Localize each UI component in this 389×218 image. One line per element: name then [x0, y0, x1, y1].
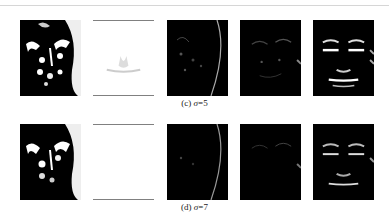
caption-c: (c) σ=5	[0, 98, 389, 108]
sigma-value: =7	[198, 202, 208, 212]
face-filter-response-5	[313, 124, 374, 200]
face-filter-response-2	[93, 20, 154, 96]
sigma-value: =5	[198, 98, 208, 108]
face-filter-response-4	[240, 124, 301, 200]
face-filter-response-1	[20, 124, 81, 200]
face-filter-response-1	[20, 20, 81, 96]
top-rule	[0, 5, 389, 6]
face-filter-response-4	[240, 20, 301, 96]
face-filter-response-2	[93, 124, 154, 200]
caption-label: (c)	[181, 98, 191, 108]
face-filter-response-5	[313, 20, 374, 96]
caption-d: (d) σ=7	[0, 202, 389, 212]
face-filter-response-3	[167, 124, 228, 200]
face-filter-response-3	[167, 20, 228, 96]
caption-label: (d)	[181, 202, 192, 212]
